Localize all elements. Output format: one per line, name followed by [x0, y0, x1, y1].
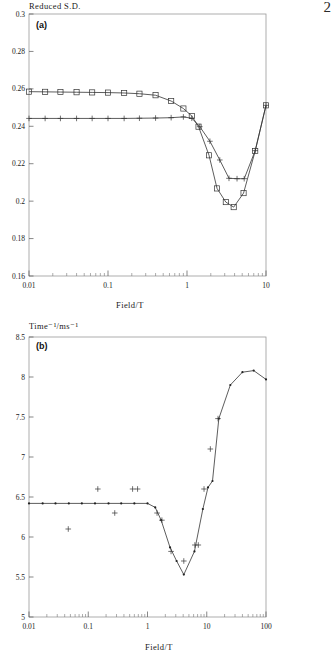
data-point-theory-line [202, 508, 204, 510]
data-point-plus [137, 115, 143, 121]
plot-frame [29, 14, 266, 276]
x-tick-label: 0.1 [103, 281, 113, 290]
data-point-plus [74, 116, 80, 122]
x-tick-label: 1 [185, 281, 189, 290]
data-point-plus [58, 116, 64, 122]
data-point-plus [234, 176, 240, 182]
figure-b: Time⁻¹/ms⁻¹ (b) Field/T 0.010.111010055.… [0, 320, 334, 664]
data-point-theory-line [183, 574, 185, 576]
data-point-theory-line [241, 371, 243, 373]
data-point-plus [121, 116, 127, 122]
data-point-plus [105, 116, 111, 122]
data-point-theory-line [120, 502, 122, 504]
data-point-plus [217, 157, 223, 163]
data-point-experimental-points [208, 446, 214, 452]
data-point-theory-line [68, 502, 70, 504]
y-tick-label: 0.3 [16, 10, 26, 19]
data-point-plus [181, 114, 187, 120]
data-point-plus [168, 115, 174, 121]
data-point-theory-line [146, 502, 148, 504]
x-tick-label: 10 [262, 281, 270, 290]
data-point-experimental-points [215, 416, 221, 422]
data-line-theory-line [29, 371, 266, 575]
data-point-theory-line [176, 560, 178, 562]
x-tick-label: 10 [203, 622, 211, 631]
figure-a: Reduced S.D. (a) Field/T 0.010.11100.160… [0, 0, 334, 318]
data-point-experimental-points [201, 486, 207, 492]
data-point-experimental-points [95, 486, 101, 492]
y-tick-label: 0.24 [12, 122, 25, 131]
y-tick-label: 7 [21, 453, 25, 462]
data-point-plus [153, 115, 159, 121]
data-point-experimental-points [65, 526, 71, 532]
data-point-experimental-points [112, 510, 118, 516]
y-tick-label: 6 [21, 533, 25, 542]
data-point-theory-line [207, 486, 209, 488]
data-point-plus [42, 116, 48, 122]
x-tick-label: 0.01 [22, 622, 35, 631]
y-tick-label: 8 [21, 373, 25, 382]
figure-b-y-axis-title: Time⁻¹/ms⁻¹ [29, 321, 78, 331]
plot-frame [29, 337, 266, 617]
data-point-experimental-points [135, 486, 141, 492]
data-point-theory-line [193, 550, 195, 552]
y-tick-label: 0.18 [12, 234, 25, 243]
y-tick-label: 0.28 [12, 47, 25, 56]
data-line-plus [29, 105, 266, 178]
x-tick-label: 0.1 [84, 622, 94, 631]
data-point-experimental-points [130, 486, 136, 492]
data-point-experimental-points [181, 558, 187, 564]
data-point-plus [89, 116, 95, 122]
data-point-theory-line [81, 502, 83, 504]
figure-b-panel-tag: (b) [36, 341, 48, 351]
figure-b-x-axis-title: Field/T [145, 642, 173, 652]
y-tick-label: 5.5 [16, 573, 26, 582]
y-tick-label: 8.5 [16, 333, 26, 342]
y-tick-label: 6.5 [16, 493, 26, 502]
y-tick-label: 7.5 [16, 413, 26, 422]
data-point-theory-line [265, 378, 267, 380]
figure-a-plot: 0.010.11100.160.180.20.220.240.260.280.3 [0, 0, 334, 300]
data-point-theory-line [211, 480, 213, 482]
data-point-theory-line [154, 506, 156, 508]
data-point-theory-line [94, 502, 96, 504]
data-point-theory-line [229, 384, 231, 386]
x-tick-label: 0.01 [22, 281, 35, 290]
data-point-theory-line [133, 502, 135, 504]
data-point-theory-line [107, 502, 109, 504]
data-point-plus [207, 138, 213, 144]
x-tick-label: 100 [260, 622, 272, 631]
figure-a-panel-tag: (a) [36, 20, 47, 30]
y-tick-label: 0.16 [12, 272, 25, 281]
data-point-plus [241, 176, 247, 182]
figure-a-x-axis-title: Field/T [116, 300, 144, 310]
data-point-theory-line [28, 502, 30, 504]
x-tick-label: 1 [146, 622, 150, 631]
data-line-squares [29, 92, 266, 207]
figure-b-plot: 0.010.111010055.566.577.588.5 [0, 320, 334, 640]
data-point-theory-line [54, 502, 56, 504]
data-point-plus [26, 116, 32, 122]
figure-a-y-axis-title: Reduced S.D. [29, 1, 81, 11]
data-point-theory-line [253, 370, 255, 372]
data-point-theory-line [169, 546, 171, 548]
data-point-plus [226, 176, 232, 182]
data-point-plus [263, 103, 269, 109]
y-tick-label: 0.22 [12, 159, 25, 168]
y-tick-label: 5 [21, 613, 25, 622]
data-point-theory-line [42, 502, 44, 504]
y-tick-label: 0.2 [16, 197, 26, 206]
y-tick-label: 0.26 [12, 84, 25, 93]
